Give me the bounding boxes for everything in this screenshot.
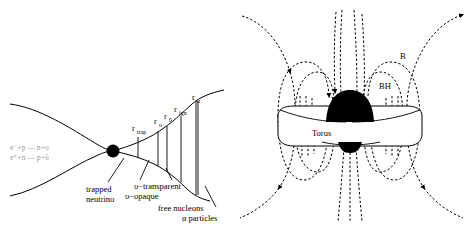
leader-trapped-neutrino <box>108 158 124 182</box>
torus-label: Torus <box>312 128 331 138</box>
radius-label-sub: α <box>197 98 201 104</box>
leader-nu-transparent <box>166 168 172 180</box>
field-line-outer-upper-right <box>413 15 462 72</box>
field-line-outer-upper-right-head <box>407 72 413 106</box>
leader-nu-opaque <box>140 160 149 180</box>
left-panel-svg: e⁻+p — n+υ e⁺+n — p+ῡ r trap r υ r ῡ r… <box>0 0 234 227</box>
bh-label: BH <box>379 81 391 91</box>
radius-label-sub: ῡ <box>169 117 172 123</box>
radius-label-sub: υ <box>159 122 162 128</box>
field-line-jet-bottom-left <box>338 148 344 222</box>
reaction-equation-1: e⁻+p — n+υ <box>10 143 49 152</box>
field-line-outer-lower-left-tail <box>240 188 279 218</box>
radius-label-base: r <box>154 116 157 126</box>
right-panel: BH B Torus <box>234 0 468 227</box>
field-line-outer-upper-left <box>242 16 290 72</box>
radius-label-base: r <box>174 104 177 114</box>
caption-alpha-particles: α particles <box>182 213 217 223</box>
caption-trapped-neutrino-line2: neutrino <box>86 194 114 204</box>
caption-nu-transparent: υ−transparent <box>134 181 181 191</box>
field-line-jet-top-mid-right <box>354 10 357 94</box>
radius-label-r-nubar: r ῡ <box>164 111 172 123</box>
field-line-outer-lower-right-tail <box>424 188 463 218</box>
field-line-outer-upper-left-tail <box>290 72 295 106</box>
radius-label-r-alpha: r α <box>192 92 201 104</box>
central-black-hole-dot <box>107 145 120 158</box>
leader-alpha-particles <box>205 186 216 207</box>
scientific-figure: e⁻+p — n+υ e⁺+n — p+ῡ r trap r υ r ῡ r… <box>0 0 468 227</box>
radius-label-sub: trap <box>137 129 146 135</box>
radius-label-base: r <box>132 123 135 133</box>
right-panel-svg: BH B Torus <box>234 0 468 227</box>
radius-label-base: r <box>164 111 167 121</box>
radius-label-sub: ign <box>179 110 187 116</box>
caption-nu-opaque: υ−opaque <box>125 191 159 201</box>
caption-trapped-neutrino-line1: trapped <box>86 184 112 194</box>
radius-label-r-trap: r trap <box>132 123 146 135</box>
field-line-jet-bottom-right <box>356 148 362 222</box>
radius-label-base: r <box>192 92 195 102</box>
left-panel: e⁻+p — n+υ e⁺+n — p+ῡ r trap r υ r ῡ r… <box>0 0 234 227</box>
radius-label-r-ign: r ign <box>174 104 187 116</box>
b-field-label: B <box>400 51 406 61</box>
reaction-equation-2: e⁺+n — p+ῡ <box>10 153 49 162</box>
radius-label-r-nu: r υ <box>154 116 162 128</box>
field-line-jet-top-right <box>362 14 364 96</box>
field-line-jet-top-left <box>334 12 336 92</box>
caption-free-nucleons: free nucleons <box>158 203 204 213</box>
black-hole-lower-bulge <box>338 142 362 153</box>
field-line-jet-top-mid-left <box>340 10 342 94</box>
